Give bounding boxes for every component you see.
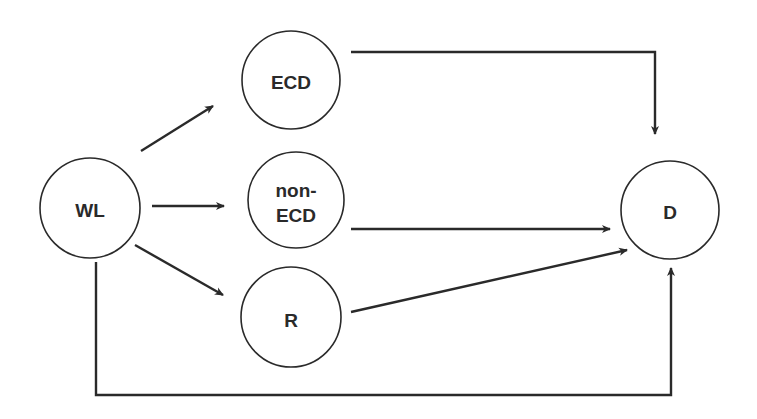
node-non-ecd: non- ECD [248, 152, 344, 248]
edge-wl-to-ecd [141, 106, 213, 151]
edge-wl-to-r [135, 245, 223, 295]
node-non-ecd-label-line2: ECD [276, 205, 316, 226]
node-d-label: D [663, 202, 677, 223]
node-wl-label: WL [75, 200, 105, 221]
state-transition-diagram: WL ECD non- ECD R D [0, 0, 757, 419]
node-ecd-label: ECD [271, 72, 311, 93]
edge-ecd-to-d [351, 52, 655, 134]
edge-wl-to-d [96, 262, 671, 395]
edge-r-to-d [351, 250, 627, 312]
node-r: R [241, 267, 341, 367]
node-wl: WL [40, 158, 140, 258]
node-d: D [621, 161, 719, 259]
node-non-ecd-label-line1: non- [275, 180, 316, 201]
node-r-label: R [284, 310, 298, 331]
node-ecd: ECD [242, 31, 340, 129]
